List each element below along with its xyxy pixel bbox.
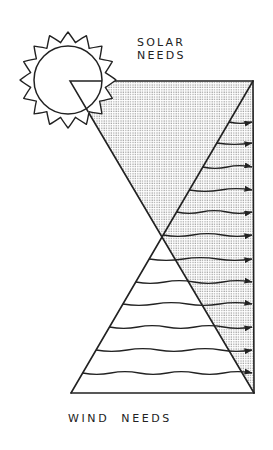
- solar-label-line2: NEEDS: [137, 49, 186, 62]
- wind-arrow: [83, 372, 252, 375]
- solar-wind-needs-diagram: [0, 0, 273, 450]
- sun-disc: [34, 46, 102, 114]
- solar-label-line1: SOLAR: [137, 36, 186, 49]
- right-edge-line: [253, 81, 254, 393]
- sun-icon: [20, 32, 116, 128]
- solar-needs-label: SOLAR NEEDS: [137, 36, 186, 62]
- wind-needs-label: WIND NEEDS: [68, 412, 172, 425]
